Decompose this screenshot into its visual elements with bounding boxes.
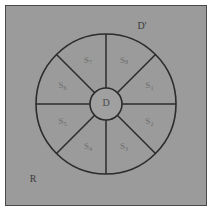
outer-region-label: R: [30, 173, 37, 184]
sector-label-s1: S1: [145, 80, 153, 91]
sector-label-s7: S7: [84, 55, 92, 66]
sector-label-s4: S4: [84, 141, 92, 152]
sector-label-s3: S3: [120, 141, 128, 152]
sector-label-s5: S5: [59, 116, 67, 127]
figure-root: S1S2S3S4S5S6S7S8 D' D R: [0, 0, 212, 211]
sector-label-s6: S6: [59, 80, 67, 91]
sector-label-s2: S2: [145, 116, 153, 127]
outer-disk-label: D': [137, 20, 146, 31]
inner-disk-label: D: [102, 97, 109, 108]
partitioned-disk-diagram: S1S2S3S4S5S6S7S8 D' D R: [0, 0, 212, 211]
sector-label-s8: S8: [120, 55, 128, 66]
